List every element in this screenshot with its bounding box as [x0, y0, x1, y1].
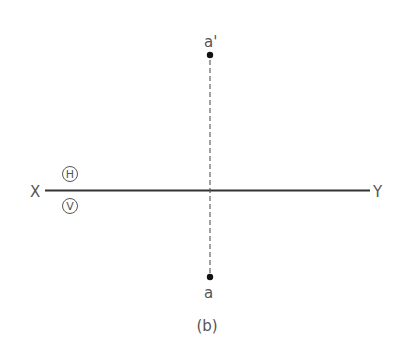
front-view-point: a' [204, 33, 217, 58]
label-x: X [30, 183, 40, 201]
point-a-dot [207, 274, 213, 280]
label-a-prime: a' [204, 33, 217, 51]
label-h: H [66, 168, 74, 181]
label-a: a [204, 284, 213, 302]
label-v: V [66, 200, 74, 213]
top-view-point: a [204, 274, 213, 302]
figure-caption: (b) [196, 317, 217, 335]
label-y: Y [372, 183, 383, 201]
vertical-plane-marker: V [63, 199, 78, 214]
horizontal-plane-marker: H [63, 167, 78, 182]
point-a-prime-dot [207, 52, 213, 58]
projection-diagram: X Y H V a' a (b) [0, 0, 409, 358]
